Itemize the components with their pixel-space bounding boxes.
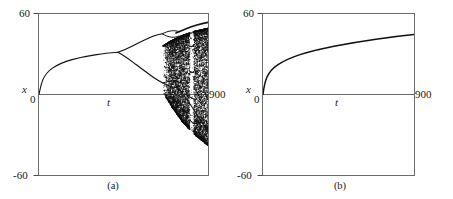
panel-b-x-axis-title: t	[335, 97, 338, 108]
bifurcation-figure: 60 -60 x 0 t 900 (a)	[0, 0, 453, 199]
panel-b-xend-label: 900	[415, 89, 432, 100]
panel-b-caption: (b)	[227, 180, 453, 191]
panel-a-ymax-label: 60	[19, 8, 30, 19]
panel-b: 60 -60 x 0 t 900 (b)	[227, 0, 453, 199]
panel-a-caption: (a)	[0, 180, 226, 191]
panel-b-ymax-label: 60	[243, 8, 254, 19]
panel-a-x-axis-title: t	[107, 97, 110, 108]
panel-b-y-axis-title: x	[246, 84, 251, 95]
panel-a-zero-label: 0	[30, 94, 36, 105]
panel-a: 60 -60 x 0 t 900 (a)	[0, 0, 226, 199]
panel-b-zero-label: 0	[254, 94, 260, 105]
panel-a-y-axis-title: x	[22, 84, 27, 95]
panel-a-xend-label: 900	[209, 89, 226, 100]
